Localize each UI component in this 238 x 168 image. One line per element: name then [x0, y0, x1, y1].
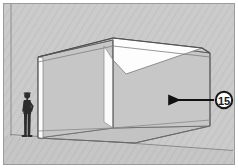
- left-front-pilaster-white: [38, 57, 43, 139]
- architectural-sketch-svg: 15: [0, 0, 238, 168]
- callout-number: 15: [218, 95, 230, 107]
- interior-back-wall-white: [104, 46, 113, 128]
- diagram-canvas: 15: [0, 0, 238, 168]
